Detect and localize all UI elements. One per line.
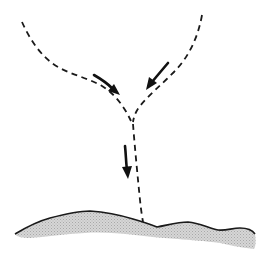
left-flow-arrow-icon <box>94 75 120 95</box>
left-branch-path <box>22 22 131 121</box>
right-flow-arrow-icon <box>146 63 168 90</box>
right-branch-path <box>133 15 202 122</box>
diagram-canvas <box>0 0 269 261</box>
down-flow-arrow-icon <box>122 146 132 179</box>
flow-diagram <box>0 0 269 261</box>
stem-path <box>133 124 143 222</box>
